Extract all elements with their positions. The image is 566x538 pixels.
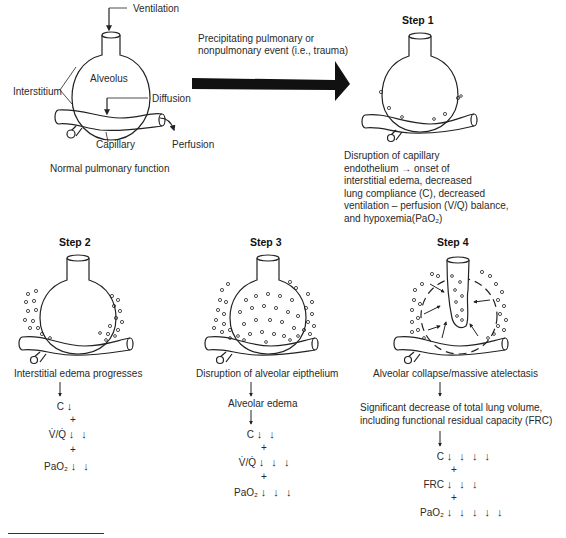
step2-alveolus-drawing xyxy=(19,255,133,364)
step4-effect-pao2: PaO₂ ↓ ↓ ↓ ↓ ↓ xyxy=(416,506,505,518)
label-perfusion: Perfusion xyxy=(172,139,214,151)
label-alveolus: Alveolus xyxy=(90,73,128,85)
step2-effect-c: C ↓ xyxy=(40,400,74,412)
label-interstitium: Interstitium xyxy=(13,86,62,98)
step3-intermediate: Alveolar edema xyxy=(228,398,297,410)
effect-label: PaO₂ xyxy=(40,461,68,472)
step2-effect-pao2: PaO₂ ↓ ↓ xyxy=(40,460,91,472)
effect-label: V̇/Q̇ xyxy=(40,429,66,440)
step1-desc-line: lung compliance (C), decreased xyxy=(344,188,509,201)
effect-label: PaO₂ xyxy=(416,507,444,518)
decrease-arrows: ↓ xyxy=(67,400,75,412)
decrease-arrows: ↓ ↓ ↓ xyxy=(447,478,480,490)
step2-title: Step 2 xyxy=(59,236,91,248)
step4-effect-frc: FRC ↓ ↓ ↓ xyxy=(416,478,479,490)
decrease-arrows: ↓ ↓ xyxy=(71,460,91,472)
decrease-arrows: ↓ ↓ ↓ ↓ xyxy=(447,450,492,462)
effect-label: V̇/Q̇ xyxy=(230,457,256,468)
plus-sign: + xyxy=(70,414,76,425)
label-ventilation: Ventilation xyxy=(133,3,179,15)
effect-label: C xyxy=(420,451,444,462)
plus-sign: + xyxy=(70,444,76,455)
step4-intermediate-line2: including functional residual capacity (… xyxy=(360,415,552,427)
step3-caption: Disruption of alveolar eipthelium xyxy=(196,368,338,380)
transition-line2: nonpulmonary event (i.e., trauma) xyxy=(198,45,348,57)
decrease-arrows: ↓ ↓ ↓ ↓ ↓ xyxy=(447,506,505,518)
transition-arrow xyxy=(192,61,350,101)
effect-label: PaO₂ xyxy=(230,487,258,498)
step4-collapsed-alveolus-drawing xyxy=(394,257,508,364)
step3-effect-pao2: PaO₂ ↓ ↓ ↓ xyxy=(230,486,293,498)
step1-desc-line: ventilation – perfusion (V/Q) balance, xyxy=(344,200,509,213)
step1-desc-line: endothelium → onset of xyxy=(344,163,509,176)
transition-line1: Precipitating pulmonary or xyxy=(198,33,314,45)
label-diffusion: Diffusion xyxy=(152,93,191,105)
step4-caption: Alveolar collapse/massive atelectasis xyxy=(373,368,538,380)
step4-title: Step 4 xyxy=(437,236,469,248)
decrease-arrows: ↓ ↓ ↓ xyxy=(261,486,294,498)
step2-caption: Interstitial edema progresses xyxy=(14,368,142,380)
effect-label: FRC xyxy=(416,479,444,490)
step1-desc-line: Disruption of capillary xyxy=(344,150,509,163)
effect-label: C xyxy=(40,401,64,412)
plus-sign: + xyxy=(261,442,267,453)
step3-alveolus-drawing xyxy=(205,255,318,364)
step1-desc-line: interstitial edema, decreased xyxy=(344,175,509,188)
step4-effect-c: C ↓ ↓ ↓ ↓ xyxy=(420,450,492,462)
decrease-arrows: ↓ ↓ ↓ xyxy=(259,456,292,468)
plus-sign: + xyxy=(261,471,267,482)
plus-sign: + xyxy=(451,492,457,503)
effect-label: C xyxy=(230,429,254,440)
step1-alveolus-drawing xyxy=(362,33,477,142)
label-capillary: Capillary xyxy=(96,139,135,151)
plus-sign: + xyxy=(451,464,457,475)
step1-description: Disruption of capillary endothelium → on… xyxy=(344,150,509,225)
decrease-arrows: ↓ ↓ xyxy=(257,428,277,440)
caption-normal: Normal pulmonary function xyxy=(50,163,170,175)
step4-intermediate-line1: Significant decrease of total lung volum… xyxy=(360,402,542,414)
step1-desc-line: and hypoxemia(PaO₂) xyxy=(344,213,509,226)
step3-effect-c: C ↓ ↓ xyxy=(230,428,277,440)
step2-effect-vq: V̇/Q̇ ↓ ↓ xyxy=(40,428,89,440)
step3-title: Step 3 xyxy=(250,236,282,248)
decrease-arrows: ↓ ↓ xyxy=(69,428,89,440)
footnote-rule xyxy=(8,533,104,534)
step1-title: Step 1 xyxy=(402,14,434,26)
step3-effect-vq: V̇/Q̇ ↓ ↓ ↓ xyxy=(230,456,291,468)
